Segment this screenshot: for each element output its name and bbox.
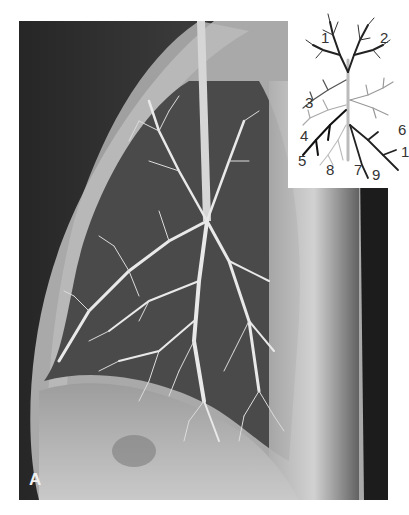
segment-label: 1 (321, 30, 329, 45)
bronchial-tree-diagram-inset: 1 2 3 4 5 6 8 7 9 1 (288, 0, 408, 188)
segment-label: 2 (380, 30, 388, 45)
panel-label: A (29, 470, 41, 490)
segment-label: 3 (305, 95, 313, 110)
segment-label: 7 (354, 162, 362, 177)
segment-label: 4 (300, 128, 308, 143)
segment-label: 5 (298, 153, 306, 168)
segment-label: 1 (401, 144, 409, 159)
segment-label: 9 (372, 167, 380, 182)
segment-label: 6 (398, 122, 406, 137)
segment-label: 8 (326, 162, 334, 177)
